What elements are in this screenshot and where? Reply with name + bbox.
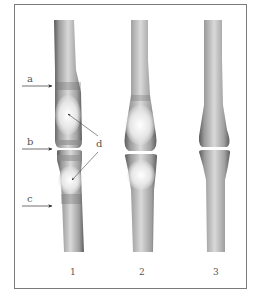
bone-1	[54, 20, 84, 252]
bone-1-number: 1	[70, 268, 76, 277]
bone-3	[199, 20, 230, 252]
bone-1-upper-growth-zone	[55, 95, 81, 135]
bone-3-lower-shaft	[199, 150, 230, 252]
bone-2-upper-growth-zone	[125, 105, 155, 145]
bone-2	[125, 20, 158, 252]
bone-2-lower-growth-zone	[127, 160, 155, 190]
marker-d-label: d	[96, 139, 102, 149]
bone-1-lower-growth-zone	[58, 166, 82, 194]
bone-3-number: 3	[213, 268, 219, 277]
bone-growth-figure: a b c d 1 2 3	[0, 0, 258, 307]
bone-3-upper-shaft	[199, 20, 230, 147]
bone-illustration	[0, 0, 258, 307]
marker-b-label: b	[27, 137, 33, 147]
marker-a-label: a	[27, 74, 33, 84]
marker-c-label: c	[27, 194, 33, 204]
bone-2-number: 2	[139, 268, 145, 277]
